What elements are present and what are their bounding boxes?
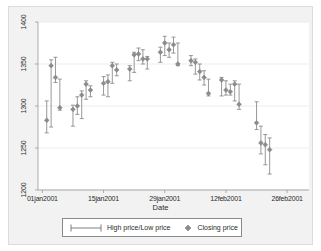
range-bar <box>259 126 263 154</box>
diamond-icon <box>182 223 194 233</box>
range-bar <box>268 138 272 174</box>
legend-label-high-low: High price/Low price <box>107 224 170 231</box>
y-tick-label: 1300 <box>12 100 36 112</box>
range-bar <box>263 135 267 165</box>
closing-price-marker <box>162 41 167 46</box>
data-series-layer <box>44 36 272 174</box>
closing-price-marker <box>167 47 172 52</box>
closing-price-marker <box>254 120 259 125</box>
closing-price-marker <box>84 82 89 87</box>
legend-entry-closing: Closing price <box>182 223 237 233</box>
y-tick-label: 1400 <box>12 16 36 28</box>
closing-price-marker <box>232 82 237 87</box>
closing-price-marker <box>53 75 58 80</box>
legend: High price/Low price Closing price <box>62 218 242 237</box>
closing-price-marker <box>127 67 132 72</box>
range-bar <box>106 75 110 97</box>
closing-price-marker <box>136 52 141 57</box>
closing-price-marker <box>202 75 207 80</box>
x-axis-title: Date <box>0 203 321 212</box>
x-tick-label: 01jan2001 <box>10 195 74 202</box>
closing-price-marker <box>71 107 76 112</box>
closing-price-marker <box>206 91 211 96</box>
x-tick-label: 26feb2001 <box>255 195 319 202</box>
legend-label-closing: Closing price <box>197 224 237 231</box>
closing-price-marker <box>145 57 150 62</box>
x-tick-label: 15jan2001 <box>72 195 136 202</box>
capped-line-icon <box>69 223 103 233</box>
range-bar <box>163 36 167 55</box>
closing-price-marker <box>197 69 202 74</box>
closing-price-marker <box>132 52 137 57</box>
closing-price-marker <box>79 93 84 98</box>
y-tick-label: 1350 <box>12 58 36 70</box>
legend-entry-high-low: High price/Low price <box>69 223 170 233</box>
closing-price-marker <box>114 67 119 72</box>
chart-screenshot: 12001250130013501400 01jan200115jan20012… <box>0 0 321 251</box>
x-tick-label: 29jan2001 <box>133 195 197 202</box>
range-bar <box>49 60 53 127</box>
closing-price-marker <box>88 88 93 93</box>
closing-price-marker <box>171 42 176 47</box>
closing-price-marker <box>219 78 224 83</box>
x-tick-label: 12feb2001 <box>194 195 258 202</box>
closing-price-marker <box>75 104 80 109</box>
y-tick-label: 1250 <box>12 142 36 154</box>
closing-price-marker <box>44 118 49 123</box>
closing-price-marker <box>158 50 163 55</box>
range-plot-svg <box>0 0 321 251</box>
